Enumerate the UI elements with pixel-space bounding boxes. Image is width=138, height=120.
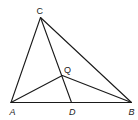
segment-cb [41, 18, 132, 103]
label-b: B [129, 107, 135, 117]
label-c: C [37, 6, 44, 16]
label-a: A [9, 107, 16, 117]
triangle-diagram: C Q A D B [0, 0, 138, 120]
segment-qb [62, 76, 131, 103]
label-q: Q [64, 65, 71, 75]
label-d: D [69, 107, 76, 117]
segment-cd [41, 18, 72, 103]
